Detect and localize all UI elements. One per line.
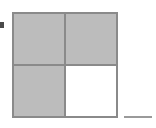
baseline-rule <box>124 116 152 118</box>
grid-quadrant-bottom-left <box>14 65 65 116</box>
grid-quadrant-top-right <box>65 14 116 65</box>
bullet-marker-icon <box>0 22 4 28</box>
figure-canvas <box>0 0 156 128</box>
grid-quadrant-top-left <box>14 14 65 65</box>
fraction-grid-square <box>12 12 118 118</box>
grid-quadrant-bottom-right <box>65 65 116 116</box>
